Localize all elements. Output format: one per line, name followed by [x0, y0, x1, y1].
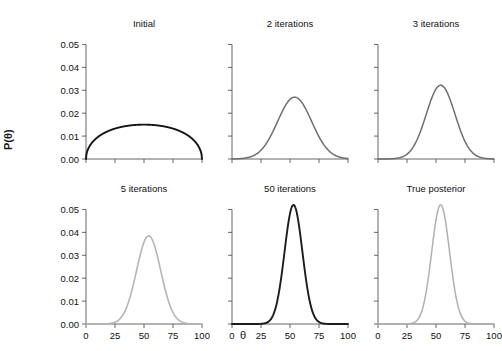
- panel-2-iterations: 2 iterations: [232, 33, 348, 159]
- x-tick-label: 50: [285, 330, 296, 341]
- panel-title: Initial: [86, 18, 202, 29]
- plot-area: [86, 33, 202, 159]
- x-tick-labels: 0255075100: [86, 330, 202, 344]
- y-tick-label: 0.05: [61, 204, 80, 215]
- plot-area: [232, 198, 348, 324]
- x-tick-label: 0: [83, 330, 88, 341]
- panel-initial: Initial: [86, 33, 202, 159]
- y-tick-label: 0.03: [61, 85, 80, 96]
- panel-title: 50 iterations: [232, 183, 348, 194]
- x-tick-label: 25: [402, 330, 413, 341]
- y-tick-label: 0.04: [61, 227, 80, 238]
- x-tick-label: 75: [460, 330, 471, 341]
- x-tick-label: 0: [229, 330, 234, 341]
- plot-area: [232, 33, 348, 159]
- panel-title: True posterior: [378, 183, 494, 194]
- y-tick-label: 0.05: [61, 39, 80, 50]
- panel-5-iterations: 5 iterations: [86, 198, 202, 324]
- y-tick-label: 0.04: [61, 62, 80, 73]
- panel-true-posterior: True posterior: [378, 198, 494, 324]
- panel-3-iterations: 3 iterations: [378, 33, 494, 159]
- x-tick-label: 25: [256, 330, 267, 341]
- x-tick-label: 75: [168, 330, 179, 341]
- density-curve: [378, 85, 494, 159]
- plot-area: [86, 198, 202, 324]
- x-tick-label: 100: [194, 330, 210, 341]
- panel-50-iterations: 50 iterations: [232, 198, 348, 324]
- x-tick-label: 100: [486, 330, 502, 341]
- x-tick-label: 50: [139, 330, 150, 341]
- panel-title: 3 iterations: [378, 18, 494, 29]
- x-tick-label: 50: [431, 330, 442, 341]
- plot-area: [378, 33, 494, 159]
- plot-area: [378, 198, 494, 324]
- y-tick-label: 0.02: [61, 273, 80, 284]
- x-tick-label: 100: [340, 330, 356, 341]
- x-tick-label: 25: [110, 330, 121, 341]
- x-tick-labels: 0255075100: [232, 330, 348, 344]
- x-tick-labels: 0255075100: [378, 330, 494, 344]
- y-tick-label: 0.03: [61, 250, 80, 261]
- density-curve: [86, 236, 202, 324]
- x-tick-label: 0: [375, 330, 380, 341]
- y-axis-label: P(θ): [2, 129, 14, 150]
- panel-title: 5 iterations: [86, 183, 202, 194]
- y-tick-label: 0.01: [61, 131, 80, 142]
- panel-title: 2 iterations: [232, 18, 348, 29]
- y-tick-label: 0.02: [61, 108, 80, 119]
- y-tick-label: 0.01: [61, 296, 80, 307]
- density-curve: [232, 97, 348, 159]
- density-curve: [86, 125, 202, 159]
- x-tick-label: 75: [314, 330, 325, 341]
- density-curve: [378, 205, 494, 324]
- density-curve: [232, 205, 348, 324]
- y-tick-label: 0.00: [61, 154, 80, 165]
- y-tick-label: 0.00: [61, 319, 80, 330]
